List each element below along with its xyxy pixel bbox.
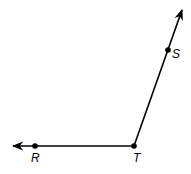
angle-diagram: R T S (0, 0, 191, 174)
point-R (32, 143, 38, 149)
point-T (131, 143, 137, 149)
label-T: T (133, 151, 142, 165)
label-S: S (172, 47, 180, 61)
ray-TS (134, 10, 182, 146)
point-S (165, 47, 171, 53)
label-R: R (31, 151, 40, 165)
